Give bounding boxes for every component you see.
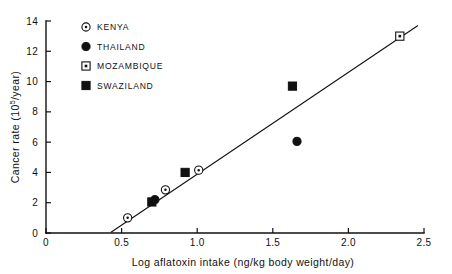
x-axis-title: Log aflatoxin intake (ng/kg body weight/… (132, 256, 354, 268)
filled-circle-icon (293, 137, 301, 145)
x-axis-ticks (46, 228, 424, 233)
legend-item-label: THAILAND (97, 42, 146, 52)
data-point (161, 186, 169, 194)
y-axis-tick-labels: 02468101214 (26, 16, 38, 239)
data-point (293, 137, 301, 145)
y-tick-label: 8 (32, 106, 38, 117)
legend-item-kenya: KENYA (82, 22, 129, 32)
series-swaziland (148, 82, 297, 206)
y-tick-label: 14 (26, 16, 38, 27)
y-axis-ticks (46, 21, 51, 233)
x-tick-label: 2.0 (341, 237, 356, 248)
data-point (396, 32, 404, 40)
data-point (124, 214, 132, 222)
y-axis-title-main: Cancer rate (10 (9, 104, 21, 183)
legend: KENYATHAILANDMOZAMBIQUESWAZILAND (82, 22, 163, 91)
series-kenya (124, 166, 203, 222)
filled-circle-icon (82, 42, 90, 50)
x-tick-label: 2.5 (417, 237, 432, 248)
y-tick-label: 4 (32, 167, 38, 178)
x-tick-label: 1.0 (190, 237, 205, 248)
legend-item-thailand: THAILAND (82, 42, 146, 52)
y-tick-label: 12 (26, 46, 38, 57)
y-axis-title: Cancer rate (105/year) (9, 71, 21, 184)
legend-item-swaziland: SWAZILAND (82, 81, 154, 91)
y-tick-label: 2 (32, 197, 38, 208)
y-tick-label: 10 (26, 76, 38, 87)
filled-square-icon (82, 81, 90, 89)
y-tick-label: 6 (32, 137, 38, 148)
filled-square-icon (181, 168, 189, 176)
center-dot-icon (399, 35, 402, 38)
x-tick-label: 1.5 (265, 237, 280, 248)
data-point (195, 166, 203, 174)
scatter-chart-figure: 02468101214 00.51.01.52.02.5 Log aflatox… (0, 0, 452, 274)
center-dot-icon (197, 169, 200, 172)
data-point (288, 82, 296, 90)
center-dot-icon (126, 217, 129, 220)
series-thailand (151, 137, 301, 204)
y-tick-label: 0 (32, 228, 38, 239)
center-dot-icon (164, 189, 167, 192)
filled-square-icon (148, 198, 156, 206)
center-dot-icon (85, 65, 88, 68)
legend-item-mozambique: MOZAMBIQUE (82, 61, 163, 71)
series-mozambique (396, 32, 404, 40)
x-tick-label: 0 (43, 237, 49, 248)
legend-item-label: KENYA (97, 22, 129, 32)
legend-marker-swaziland (82, 81, 90, 89)
legend-marker-thailand (82, 42, 90, 50)
legend-item-label: SWAZILAND (97, 81, 154, 91)
data-point (181, 168, 189, 176)
x-tick-label: 0.5 (114, 237, 129, 248)
filled-square-icon (288, 82, 296, 90)
legend-marker-kenya (82, 23, 90, 31)
center-dot-icon (85, 26, 88, 29)
legend-item-label: MOZAMBIQUE (97, 61, 163, 71)
y-axis-title-tail: /year) (9, 71, 21, 100)
x-axis-tick-labels: 00.51.01.52.02.5 (43, 237, 431, 248)
data-point (148, 198, 156, 206)
data-point-group (124, 32, 404, 222)
legend-marker-mozambique (82, 62, 90, 70)
chart-canvas: 02468101214 00.51.01.52.02.5 Log aflatox… (0, 0, 452, 274)
